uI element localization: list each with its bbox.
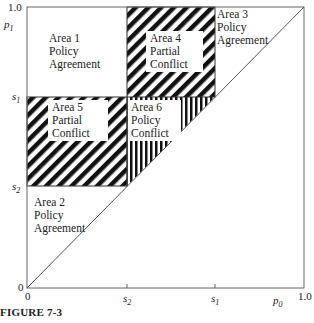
- area-6-label: Area 6PolicyConflict: [129, 100, 181, 141]
- area-1-label: Area 1PolicyAgreement: [49, 32, 100, 71]
- y-origin-label: 0: [18, 281, 24, 294]
- y-tick-s2: s2: [12, 180, 20, 197]
- x-max-label: 1.0: [298, 290, 312, 303]
- area-5-label: Area 5PartialConflict: [48, 100, 108, 141]
- y-max-label: 1.0: [8, 1, 22, 14]
- y-tick-s1: s1: [12, 90, 20, 107]
- x-axis-label: p0: [273, 294, 283, 311]
- area-2-label: Area 2PolicyAgreement: [34, 196, 85, 235]
- figure-caption: FIGURE 7-3: [0, 306, 62, 318]
- area-3-label: Area 3PolicyAgreement: [217, 8, 268, 47]
- y-axis-label: p1: [4, 18, 14, 35]
- x-tick-s1: s1: [211, 292, 219, 309]
- x-origin-label: 0: [25, 290, 31, 303]
- area-4-label: Area 4PartialConflict: [146, 31, 203, 72]
- x-tick-s2: s2: [123, 292, 131, 309]
